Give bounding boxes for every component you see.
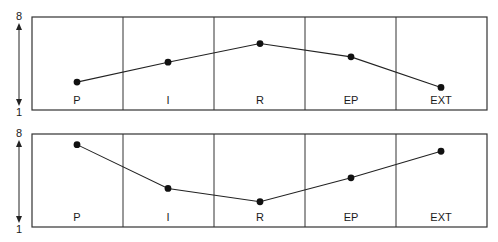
column-label-ext: EXT bbox=[430, 211, 452, 223]
data-point-p bbox=[74, 141, 81, 148]
column-label-p: P bbox=[73, 211, 80, 223]
data-point-ext bbox=[438, 148, 445, 155]
series-line bbox=[77, 44, 441, 88]
data-point-p bbox=[74, 79, 81, 86]
column-label-ep: EP bbox=[344, 94, 359, 106]
column-label-r: R bbox=[256, 211, 264, 223]
column-label-i: I bbox=[166, 211, 169, 223]
data-points bbox=[74, 141, 445, 205]
profile-diagram: 8 1 P I R EP EXT 8 1 P I R EP EX bbox=[0, 0, 498, 242]
y-axis-min-label: 1 bbox=[16, 223, 22, 235]
panel-top: 8 1 P I R EP EXT bbox=[16, 10, 487, 118]
column-label-ep: EP bbox=[344, 211, 359, 223]
column-label-p: P bbox=[73, 94, 80, 106]
arrow-up-icon bbox=[16, 23, 22, 30]
data-point-ep bbox=[348, 53, 355, 60]
y-axis-min-label: 1 bbox=[16, 106, 22, 118]
arrow-up-icon bbox=[16, 140, 22, 147]
column-label-r: R bbox=[256, 94, 264, 106]
data-point-ext bbox=[438, 84, 445, 91]
data-point-r bbox=[257, 198, 264, 205]
y-axis-max-label: 8 bbox=[16, 10, 22, 22]
y-axis-max-label: 8 bbox=[16, 127, 22, 139]
column-label-ext: EXT bbox=[430, 94, 452, 106]
data-points bbox=[74, 40, 445, 91]
data-point-r bbox=[257, 40, 264, 47]
arrow-down-icon bbox=[16, 216, 22, 223]
data-point-ep bbox=[348, 174, 355, 181]
series-line bbox=[77, 145, 441, 202]
arrow-down-icon bbox=[16, 99, 22, 106]
column-label-i: I bbox=[166, 94, 169, 106]
data-point-i bbox=[165, 59, 172, 66]
data-point-i bbox=[165, 185, 172, 192]
panel-bottom: 8 1 P I R EP EXT bbox=[16, 127, 487, 235]
